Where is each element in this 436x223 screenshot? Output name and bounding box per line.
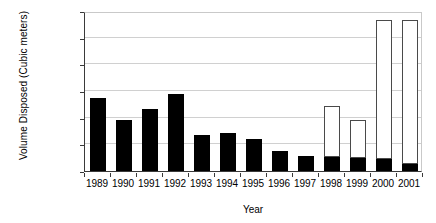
x-axis-tick-mark — [422, 173, 423, 177]
bar-1999 — [350, 121, 365, 171]
bar-1992 — [168, 94, 183, 171]
bar-1998 — [324, 107, 339, 171]
bar-1994 — [220, 133, 235, 171]
x-axis-title: Year — [84, 204, 422, 215]
x-axis-tick-label-1993: 1993 — [188, 178, 214, 189]
y-axis-tick-mark — [80, 119, 84, 120]
x-axis-tick-mark — [84, 173, 85, 177]
bar-segment-black-1995 — [246, 139, 261, 171]
bar-1989 — [90, 98, 105, 171]
x-axis-tick-mark — [214, 173, 215, 177]
x-axis-tick-label-1994: 1994 — [214, 178, 240, 189]
x-axis-tick-mark — [292, 173, 293, 177]
bar-1997 — [298, 156, 313, 171]
bar-segment-white-1999 — [350, 120, 365, 158]
x-axis-tick-mark — [240, 173, 241, 177]
y-axis-tick-mark — [80, 12, 84, 13]
y-axis-tick-mark — [80, 145, 84, 146]
bar-2000 — [376, 21, 391, 171]
bar-1996 — [272, 151, 287, 171]
x-axis-tick-label-1992: 1992 — [162, 178, 188, 189]
bar-1995 — [246, 139, 261, 171]
y-axis-tick-mark — [80, 92, 84, 93]
y-axis-title: Volume Disposed (Cubic meters) — [18, 1, 29, 171]
bar-segment-white-1998 — [324, 106, 339, 157]
x-axis-tick-mark — [110, 173, 111, 177]
bar-segment-black-1998 — [324, 157, 339, 171]
bar-segment-white-2000 — [376, 20, 391, 159]
x-axis-tick-mark — [370, 173, 371, 177]
x-axis-tick-label-1990: 1990 — [110, 178, 136, 189]
x-axis-tick-label-2001: 2001 — [396, 178, 422, 189]
x-axis-tick-mark — [396, 173, 397, 177]
x-axis-tick-mark — [136, 173, 137, 177]
x-axis-tick-label-1998: 1998 — [318, 178, 344, 189]
bar-segment-black-1990 — [116, 120, 131, 171]
x-axis-tick-mark — [344, 173, 345, 177]
bar-segment-black-1991 — [142, 109, 157, 171]
x-axis-tick-label-2000: 2000 — [370, 178, 396, 189]
bar-segment-black-1999 — [350, 158, 365, 171]
x-axis-tick-label-1997: 1997 — [292, 178, 318, 189]
bar-1990 — [116, 120, 131, 171]
x-axis-tick-label-1996: 1996 — [266, 178, 292, 189]
x-axis-tick-label-1989: 1989 — [84, 178, 110, 189]
x-axis-tick-mark — [318, 173, 319, 177]
bar-segment-black-2001 — [402, 164, 417, 171]
x-axis-tick-mark — [188, 173, 189, 177]
bar-segment-white-2001 — [402, 20, 417, 164]
bar-segment-black-1989 — [90, 98, 105, 171]
bar-chart: Volume Disposed (Cubic meters) 020000400… — [0, 0, 436, 223]
bar-segment-black-1993 — [194, 135, 209, 171]
bar-segment-black-1996 — [272, 151, 287, 171]
bar-segment-black-1992 — [168, 94, 183, 171]
x-axis-tick-label-1991: 1991 — [136, 178, 162, 189]
bar-2001 — [402, 21, 417, 171]
bar-segment-black-1994 — [220, 133, 235, 171]
x-axis-tick-label-1995: 1995 — [240, 178, 266, 189]
x-axis-tick-label-1999: 1999 — [344, 178, 370, 189]
y-axis-tick-mark — [80, 65, 84, 66]
x-axis-tick-mark — [162, 173, 163, 177]
x-axis-tick-mark — [266, 173, 267, 177]
bar-1993 — [194, 135, 209, 171]
bar-series-group — [85, 13, 421, 171]
plot-area — [84, 12, 422, 172]
bar-segment-black-1997 — [298, 156, 313, 171]
bar-1991 — [142, 109, 157, 171]
y-axis-tick-mark — [80, 39, 84, 40]
bar-segment-black-2000 — [376, 159, 391, 171]
